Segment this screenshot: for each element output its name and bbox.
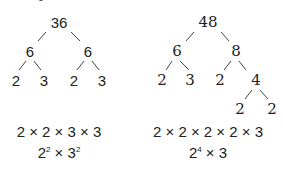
left-root-node: 36 [51,15,68,30]
right-leaf: 2 [267,102,277,117]
left-node: 6 [26,44,34,59]
left-leaf: 2 [12,73,20,88]
right-node: 4 [251,73,261,88]
left-power-form: 22 × 32 [38,145,81,160]
right-node: 8 [231,44,241,59]
left-expanded-product: 2 × 2 × 3 × 3 [17,124,102,139]
right-leaf: 2 [235,102,245,117]
left-leaf: 3 [40,73,48,88]
left-leaf: 3 [98,73,106,88]
left-leaf: 2 [70,73,78,88]
right-expanded-product: 2 × 2 × 2 × 2 × 3 [153,124,263,139]
right-leaf: 2 [215,73,225,88]
right-leaf: 2 [157,73,167,88]
right-root-node: 48 [198,15,217,30]
right-power-form: 24 × 3 [189,145,227,160]
right-node: 6 [172,44,182,59]
right-leaf: 3 [185,73,195,88]
left-node: 6 [84,44,92,59]
